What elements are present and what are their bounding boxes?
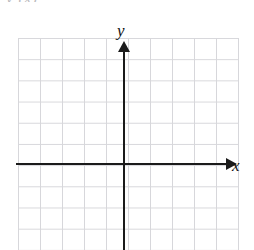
y-axis-arrowhead-icon	[118, 41, 130, 52]
coordinate-grid-figure: y (x) y x	[0, 0, 254, 250]
grid-right-border	[238, 38, 239, 250]
y-axis-label: y	[117, 22, 125, 39]
grid-background	[18, 38, 238, 250]
cropped-header-text: y (x)	[6, 0, 38, 2]
x-axis-label: x	[232, 157, 240, 174]
y-axis-line	[123, 50, 125, 250]
